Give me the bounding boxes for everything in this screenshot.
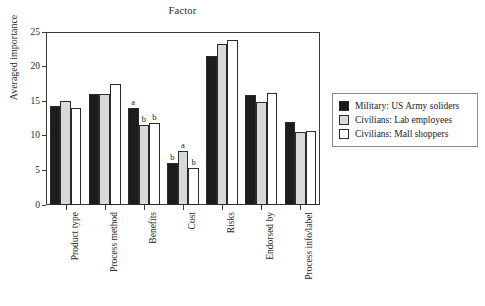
bar: [306, 131, 317, 205]
x-tick-mark: [183, 205, 184, 210]
legend-item: Military: US Army soliders: [339, 99, 471, 113]
x-tick-mark: [66, 205, 67, 210]
bar: [149, 123, 160, 205]
bar-annotation: a: [175, 141, 192, 150]
legend-item-label: Civilians: Mall shoppers: [355, 129, 448, 139]
bar: [60, 101, 71, 205]
bar: [217, 44, 228, 205]
y-tick-label: 25: [31, 26, 41, 38]
bar: [188, 168, 199, 205]
x-tick-label: Benefits: [148, 212, 158, 244]
y-tick-label: 20: [31, 60, 41, 72]
y-tick-mark: [42, 170, 46, 171]
x-tick-mark: [300, 205, 301, 210]
chart-legend: Military: US Army solidersCivilians: Lab…: [332, 93, 478, 147]
bar: [71, 108, 82, 205]
bar: [89, 94, 100, 205]
bar-annotation: b: [185, 158, 202, 167]
legend-item: Civilians: Lab employees: [339, 113, 471, 127]
bar-annotation: b: [146, 113, 163, 122]
y-tick-label: 10: [31, 129, 41, 141]
bar: [295, 132, 306, 205]
white-empty-swatch: [339, 129, 349, 139]
bar: [256, 102, 267, 205]
legend-item-label: Military: US Army soliders: [355, 101, 459, 111]
y-tick-mark: [42, 32, 46, 33]
bar: [267, 93, 278, 205]
x-tick-label: Risks: [226, 212, 236, 233]
x-tick-mark: [144, 205, 145, 210]
y-tick-mark: [42, 66, 46, 67]
bar: [245, 95, 256, 205]
x-tick-mark: [261, 205, 262, 210]
y-tick-mark: [42, 205, 46, 206]
bar: [139, 125, 150, 205]
x-tick-label: Process method: [109, 212, 119, 272]
x-tick-mark: [222, 205, 223, 210]
bar-annotation: a: [125, 98, 142, 107]
y-tick-mark: [42, 101, 46, 102]
x-tick-mark: [105, 205, 106, 210]
y-tick-label: 0: [35, 199, 40, 211]
chart-title: Factor: [45, 5, 320, 16]
bar: [110, 84, 121, 205]
x-tick-label: Product type: [70, 212, 80, 260]
x-tick-label: Process info/label: [304, 212, 314, 280]
x-tick-label: Endorsed by: [265, 212, 275, 260]
bar: [227, 40, 238, 205]
y-tick-mark: [42, 135, 46, 136]
black-filled-swatch: [339, 101, 349, 111]
bar: [285, 122, 296, 205]
y-axis-label: Averaged importance: [8, 0, 19, 133]
bar: [50, 106, 61, 205]
gray-filled-swatch: [339, 115, 349, 125]
bar: [206, 56, 217, 205]
bar-chart-figure: Factor Averaged importance 0510152025 Pr…: [0, 0, 485, 306]
bar: [167, 163, 178, 205]
y-tick-label: 15: [31, 95, 41, 107]
legend-item-label: Civilians: Lab employees: [355, 115, 452, 125]
bar: [99, 94, 110, 205]
x-tick-label: Cost: [187, 212, 197, 229]
y-tick-label: 5: [35, 164, 40, 176]
legend-item: Civilians: Mall shoppers: [339, 127, 471, 141]
